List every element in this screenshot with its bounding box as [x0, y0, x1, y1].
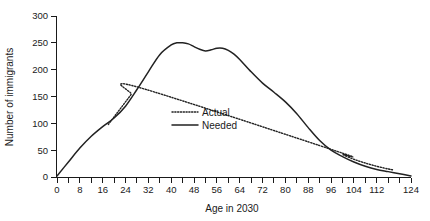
x-tick-label: 32 [143, 184, 154, 195]
y-tick-label: 100 [32, 118, 48, 129]
x-tick-label: 0 [54, 184, 59, 195]
x-tick-label: 40 [166, 184, 177, 195]
x-tick-label: 104 [346, 184, 362, 195]
series-line-needed [57, 43, 411, 176]
x-tick-label: 56 [212, 184, 223, 195]
immigrants-by-age-chart: 050100150200250300 081624324048566472808… [0, 0, 430, 221]
legend-label-actual: Actual [202, 107, 230, 118]
chart-canvas: 050100150200250300 081624324048566472808… [0, 0, 430, 221]
x-tick-label: 96 [326, 184, 337, 195]
y-tick-label: 150 [32, 91, 48, 102]
legend-label-needed: Needed [202, 120, 237, 131]
y-tick-label: 0 [43, 171, 48, 182]
data-series-group [57, 43, 411, 176]
x-axis-title: Age in 2030 [205, 203, 259, 214]
series-line-actual [108, 84, 393, 170]
x-tick-label: 72 [257, 184, 268, 195]
y-axis: 050100150200250300 [32, 10, 56, 182]
x-tick-label: 16 [97, 184, 108, 195]
y-tick-label: 300 [32, 10, 48, 21]
x-tick-label: 112 [369, 184, 384, 195]
y-tick-label: 50 [37, 145, 48, 156]
x-tick-label: 24 [120, 184, 131, 195]
x-tick-label: 80 [280, 184, 291, 195]
x-tick-label: 8 [77, 184, 82, 195]
y-tick-label: 250 [32, 37, 48, 48]
x-tick-label: 48 [189, 184, 200, 195]
x-axis: 081624324048566472808896104112124 [54, 178, 419, 196]
x-tick-label: 88 [303, 184, 314, 195]
chart-legend: ActualNeeded [172, 107, 237, 131]
y-axis-title: Number of immigrants [4, 48, 15, 146]
x-tick-label: 64 [234, 184, 245, 195]
y-tick-label: 200 [32, 64, 48, 75]
x-tick-label: 124 [403, 184, 419, 195]
